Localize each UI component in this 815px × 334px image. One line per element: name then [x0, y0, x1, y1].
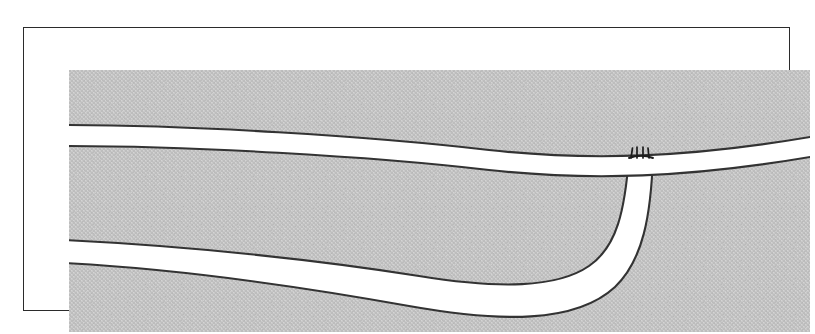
plate-frame [23, 27, 790, 311]
figure-root [0, 0, 815, 334]
illustration-canvas [69, 70, 810, 332]
diagram-svg [69, 70, 810, 332]
